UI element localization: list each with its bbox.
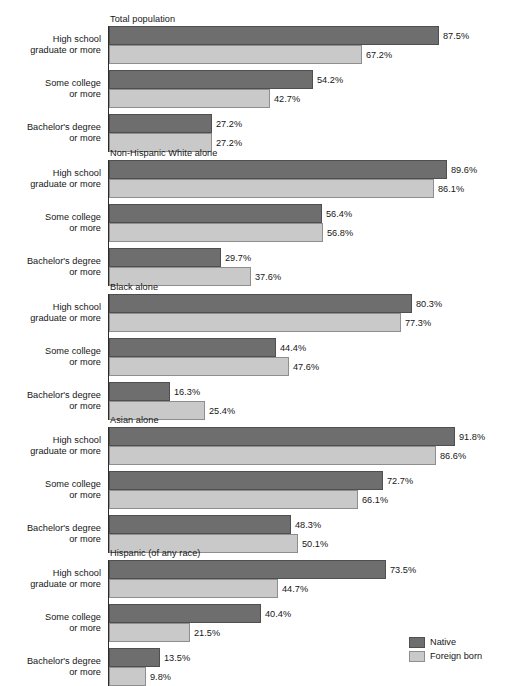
category-group: High schoolgraduate or more80.3%77.3% [0,294,508,332]
bar-value-label: 73.5% [386,564,416,575]
bar-value-label: 56.8% [323,227,353,238]
category-label-line2: graduate or more [30,313,101,324]
category-group: High schoolgraduate or more91.8%86.6% [0,427,508,465]
bar-row-foreign-born: 67.2% [109,45,508,64]
category-label-line2: graduate or more [30,446,101,457]
category-group: Some collegeor more54.2%42.7% [0,70,508,108]
bar-row-foreign-born: 44.7% [109,579,508,598]
category-label-line2: or more [27,133,101,144]
legend-item-native: Native [409,636,508,649]
bar-row-native: 72.7% [109,471,508,490]
category-group: Some collegeor more72.7%66.1% [0,471,508,509]
category-label-line1: Some college [45,346,101,357]
bar-native [109,114,212,133]
category-label-line2: or more [27,534,101,545]
bar-row-foreign-born: 66.1% [109,490,508,509]
category-group: Bachelor's degreeor more48.3%50.1% [0,515,508,553]
category-label-line1: Some college [45,78,101,89]
bar-row-foreign-born: 86.6% [109,446,508,465]
bar-foreign-born [109,357,289,376]
category-label-line2: or more [45,490,101,501]
category-label-line1: Some college [45,212,101,223]
bar-value-label: 21.5% [190,627,220,638]
category-group: Some collegeor more56.4%56.8% [0,204,508,242]
bar-value-label: 72.7% [383,475,413,486]
category-label: Bachelor's degreeor more [27,122,101,145]
bar-value-label: 27.2% [212,118,242,129]
bar-value-label: 44.7% [278,583,308,594]
bar-value-label: 66.1% [358,494,388,505]
bar-native [109,382,170,401]
legend-item-foreign-born: Foreign born [409,650,508,663]
category-label: Bachelor's degreeor more [27,256,101,279]
bar-row-foreign-born: 9.8% [109,667,508,686]
legend-swatch-foreign-born-icon [409,651,425,662]
category-label-line1: High school [30,168,101,179]
category-label-line2: or more [27,401,101,412]
bar-foreign-born [109,446,436,465]
bar-foreign-born [109,579,278,598]
category-label: Bachelor's degreeor more [27,656,101,679]
bar-native [109,294,412,313]
bar-row-native: 40.4% [109,604,508,623]
bar-native [109,427,455,446]
category-label: High schoolgraduate or more [30,568,101,591]
bar-value-label: 44.4% [276,342,306,353]
category-group: Bachelor's degreeor more29.7%37.6% [0,248,508,286]
bar-native [109,648,160,667]
bar-row-foreign-born: 86.1% [109,179,508,198]
bar-value-label: 86.6% [436,450,466,461]
bar-foreign-born [109,179,434,198]
bar-value-label: 25.4% [205,405,235,416]
bar-value-label: 40.4% [261,608,291,619]
category-label-line1: Bachelor's degree [27,390,101,401]
bar-native [109,338,276,357]
category-label: High schoolgraduate or more [30,34,101,57]
bar-row-native: 89.6% [109,160,508,179]
bar-foreign-born [109,490,358,509]
bar-row-native: 16.3% [109,382,508,401]
legend-label-native: Native [430,636,456,649]
bar-value-label: 37.6% [251,271,281,282]
bar-value-label: 13.5% [160,652,190,663]
bar-row-native: 54.2% [109,70,508,89]
bar-value-label: 80.3% [412,298,442,309]
category-label-line2: or more [45,623,101,634]
bar-value-label: 27.2% [212,137,242,148]
bar-row-native: 44.4% [109,338,508,357]
bar-value-label: 50.1% [298,538,328,549]
bar-foreign-born [109,667,146,686]
bar-value-label: 16.3% [170,386,200,397]
bar-value-label: 29.7% [221,252,251,263]
bar-native [109,160,447,179]
category-label-line2: or more [27,667,101,678]
panel-title: Non-Hispanic White alone [110,148,217,159]
category-label-line2: graduate or more [30,45,101,56]
bar-value-label: 67.2% [362,49,392,60]
category-label-line1: Bachelor's degree [27,523,101,534]
category-label-line2: or more [45,223,101,234]
bar-row-foreign-born: 25.4% [109,401,508,420]
bar-row-native: 27.2% [109,114,508,133]
bar-native [109,26,439,45]
bar-value-label: 54.2% [313,74,343,85]
category-label-line1: Bachelor's degree [27,256,101,267]
bar-foreign-born [109,223,323,242]
category-label-line2: or more [45,89,101,100]
bar-row-native: 56.4% [109,204,508,223]
bar-row-foreign-born: 47.6% [109,357,508,376]
category-group: Some collegeor more44.4%47.6% [0,338,508,376]
bar-value-label: 9.8% [146,671,171,682]
category-label-line1: Some college [45,479,101,490]
category-group: High schoolgraduate or more87.5%67.2% [0,26,508,64]
bar-row-native: 80.3% [109,294,508,313]
bar-native [109,604,261,623]
bar-value-label: 86.1% [434,183,464,194]
bar-value-label: 56.4% [322,208,352,219]
bar-value-label: 42.7% [270,93,300,104]
category-label: Some collegeor more [45,212,101,235]
category-label-line1: High school [30,568,101,579]
bar-value-label: 87.5% [439,30,469,41]
bar-value-label: 91.8% [455,431,485,442]
panel-title: Total population [110,14,175,25]
